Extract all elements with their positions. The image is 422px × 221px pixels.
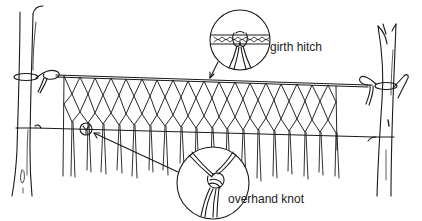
girth-hitch-callout <box>210 10 270 70</box>
left-tree-top-knot <box>14 70 59 93</box>
top-ridgeline <box>56 75 368 87</box>
overhand-leader-line <box>94 133 178 172</box>
overhand-knot-callout <box>177 147 249 219</box>
girth-hitch-label: girth hitch <box>270 41 322 53</box>
overhand-knot-label: overhand knot <box>228 193 304 205</box>
right-tree-bottom-wrap <box>368 137 394 141</box>
right-tree <box>377 24 408 196</box>
hammock-net-illustration <box>0 0 422 221</box>
girth-leader-line <box>210 62 218 78</box>
left-tree <box>12 6 43 196</box>
